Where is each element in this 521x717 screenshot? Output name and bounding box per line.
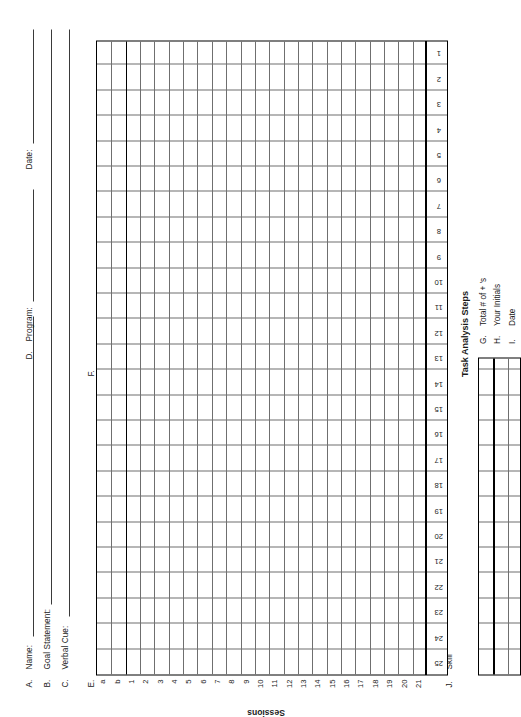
step-strip-divider [427,114,447,115]
summary-row-label: Your Initials [494,283,502,325]
grid-column-line [97,648,425,649]
step-number: 3 [426,100,451,108]
grid-row-line [154,41,155,674]
summary-column-line [479,546,520,547]
grid-row-line [413,41,414,674]
step-number: 5 [426,151,451,159]
session-label: a [99,679,107,691]
session-label: 13 [300,679,308,691]
session-label: 21 [415,679,423,691]
step-strip-divider [427,89,447,90]
grid-row-line [226,41,227,674]
grid-column-line [97,521,425,522]
grid-row-line [212,41,213,674]
task-analysis-steps-title: Task Analysis Steps [460,291,470,377]
session-label: 5 [185,679,193,691]
session-label: 18 [372,679,380,691]
session-label: 10 [257,679,265,691]
summary-row-letter: I. [509,339,517,344]
field-letter-d: D. [26,351,34,359]
field-label-program: Program: [26,307,34,341]
field-letter-b: B. [44,679,52,687]
step-strip-divider [427,495,447,496]
session-label: 20 [401,679,409,691]
session-label: 3 [157,679,165,691]
grid-row-line [111,41,112,674]
step-number: 21 [426,557,451,565]
step-strip-divider [427,521,447,522]
grid-column-line [97,571,425,572]
summary-column-line [479,419,520,420]
step-number: 4 [426,125,451,133]
session-label: 14 [314,679,322,691]
date-write-line[interactable] [33,29,34,143]
task-analysis-grid[interactable] [96,40,426,675]
step-strip-divider [427,546,447,547]
grid-row-line [298,41,299,674]
program-write-line[interactable] [33,189,34,301]
summary-column-line [479,521,520,522]
step-number: 24 [426,633,451,641]
grid-column-line [97,140,425,141]
session-label: 15 [329,679,337,691]
step-number: 25 [426,659,451,667]
grid-column-line [97,317,425,318]
grid-row-line [255,41,256,674]
summary-row-line [508,359,509,675]
grid-column-line [97,292,425,293]
grid-column-line [97,267,425,268]
step-number: 12 [426,328,451,336]
grid-row-line [183,41,184,674]
grid-column-line [97,495,425,496]
step-number: 18 [426,481,451,489]
field-label-date: Date: [26,149,34,169]
step-number: 22 [426,582,451,590]
summary-row-label: Total # of + 's [480,277,488,325]
step-number: 9 [426,252,451,260]
step-number: 1 [426,49,451,57]
step-strip-divider [427,140,447,141]
step-number: 16 [426,430,451,438]
step-number: 7 [426,201,451,209]
section-letter-e: E. [88,679,96,687]
summary-grid[interactable] [478,358,521,676]
session-label: b [114,679,122,691]
grid-column-line [97,343,425,344]
goal-statement-write-line[interactable] [51,29,52,604]
grid-column-line [97,622,425,623]
grid-column-line [97,165,425,166]
step-strip-divider [427,241,447,242]
verbal-cue-write-line[interactable] [69,29,70,616]
session-label: 11 [271,679,279,691]
summary-column-line [479,368,520,369]
grid-row-line [327,41,328,674]
session-label: 19 [386,679,394,691]
step-number: 11 [426,303,451,311]
grid-column-line [97,419,425,420]
step-strip-divider [427,622,447,623]
summary-column-line [479,470,520,471]
grid-column-line [97,597,425,598]
step-strip-divider [427,165,447,166]
summary-row-line [493,359,495,675]
step-strip-divider [427,267,447,268]
grid-row-line [370,41,371,674]
session-label: 12 [286,679,294,691]
session-label: 17 [357,679,365,691]
grid-column-line [97,190,425,191]
grid-row-line [355,41,356,674]
step-strip-divider [427,648,447,649]
step-number: 23 [426,608,451,616]
step-strip-divider [427,571,447,572]
step-number: 19 [426,506,451,514]
session-label: 4 [171,679,179,691]
step-number: 8 [426,227,451,235]
summary-row-label: Date [509,308,517,325]
name-write-line[interactable] [33,316,34,636]
grid-row-line [241,41,242,674]
step-strip-divider [427,216,447,217]
sessions-axis-title: Sessions [247,707,285,717]
step-strip-divider [427,597,447,598]
step-strip-divider [427,343,447,344]
